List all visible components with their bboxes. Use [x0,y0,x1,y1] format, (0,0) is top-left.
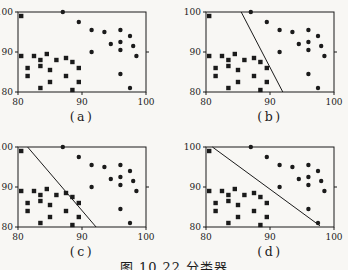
subplot-c: 80901008090100 (c) [0,135,174,270]
svg-text:80: 80 [200,97,212,107]
svg-text:90: 90 [2,182,14,192]
svg-text:90: 90 [2,47,14,57]
figure-caption: 图 10.22 分类器 [0,257,348,270]
scatter-plot-b: 80901008090100 [174,0,348,110]
svg-text:80: 80 [190,222,202,232]
svg-text:80: 80 [2,222,14,232]
svg-text:80: 80 [2,87,14,97]
svg-text:100: 100 [184,142,201,152]
svg-text:90: 90 [76,232,88,242]
svg-text:80: 80 [12,232,24,242]
svg-text:100: 100 [137,97,154,107]
svg-text:90: 90 [190,47,202,57]
svg-text:100: 100 [325,232,342,242]
svg-text:80: 80 [12,97,24,107]
svg-text:90: 90 [264,97,276,107]
svg-text:100: 100 [0,7,13,17]
svg-text:100: 100 [0,142,13,152]
subplot-d: 80901008090100 (d) [174,135,348,270]
svg-text:90: 90 [190,182,202,192]
subplot-a: 80901008090100 (a) [0,0,174,135]
svg-text:80: 80 [190,87,202,97]
scatter-plot-d: 80901008090100 [174,135,348,245]
svg-text:90: 90 [76,97,88,107]
svg-text:100: 100 [184,7,201,17]
scatter-plot-a: 80901008090100 [0,0,174,110]
svg-text:80: 80 [200,232,212,242]
subplot-label-a: (a) [18,109,146,127]
subplot-label-b: (b) [206,109,334,127]
figure-page: 80901008090100 (a) 80901008090100 (b) 80… [0,0,348,270]
svg-text:100: 100 [325,97,342,107]
svg-text:100: 100 [137,232,154,242]
scatter-plot-c: 80901008090100 [0,135,174,245]
svg-text:90: 90 [264,232,276,242]
subplot-b: 80901008090100 (b) [174,0,348,135]
